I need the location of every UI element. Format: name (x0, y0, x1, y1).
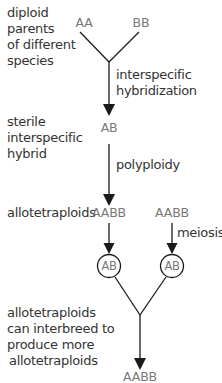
parent-b-genotype: BB (133, 16, 150, 30)
parent-a-genotype: AA (75, 16, 92, 30)
gamete-left-line (115, 277, 140, 315)
diagram-connectors (0, 0, 222, 383)
parent-b-line (109, 32, 139, 62)
hybridization-label-line-2: hybridization (116, 83, 197, 99)
tetraploid-right-genotype: AABB (155, 206, 189, 220)
left-meiosis-arrowhead-icon (104, 243, 115, 254)
gamete-right-line (140, 277, 166, 315)
offspring-genotype: AABB (123, 370, 157, 383)
meiosis-label: meiosis (177, 225, 222, 241)
hybrid-genotype: AB (101, 121, 118, 135)
hybridization-label-line-1: interspecific (116, 67, 197, 83)
hybridization-arrowhead-icon (103, 104, 115, 116)
tetraploid-left-genotype: AABB (92, 206, 126, 220)
right-meiosis-arrowhead-icon (167, 243, 178, 254)
hybridization-label: interspecific hybridization (116, 67, 197, 99)
polyploidy-label: polyploidy (116, 157, 180, 173)
gamete-left-genotype: AB (101, 259, 116, 273)
gamete-right-genotype: AB (164, 259, 179, 273)
parent-a-line (80, 32, 109, 62)
